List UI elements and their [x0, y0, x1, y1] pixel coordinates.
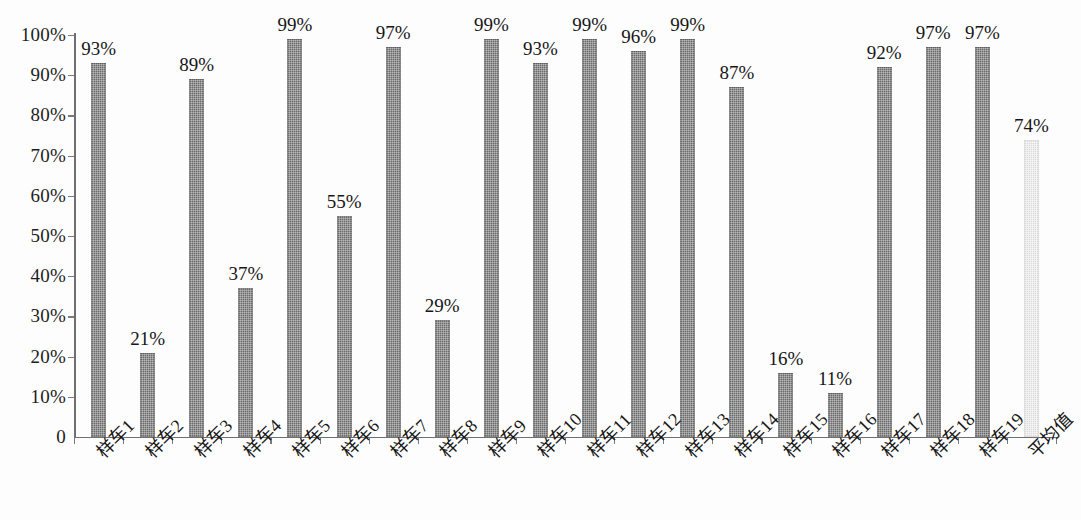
- bar[interactable]: [582, 39, 597, 437]
- bar[interactable]: [778, 373, 793, 437]
- y-axis-tick-label: 100%: [4, 25, 66, 44]
- bar-value-label: 93%: [508, 39, 572, 58]
- bar-value-label: 99%: [656, 15, 720, 34]
- bar[interactable]: [189, 79, 204, 437]
- y-axis-tick-label: 30%: [4, 306, 66, 325]
- bar[interactable]: [386, 47, 401, 437]
- bar[interactable]: [287, 39, 302, 437]
- y-axis-line: [74, 33, 76, 438]
- bar[interactable]: [238, 288, 253, 437]
- bar[interactable]: [1024, 140, 1039, 437]
- bar[interactable]: [877, 67, 892, 437]
- bar-value-label: 99%: [263, 15, 327, 34]
- bar[interactable]: [680, 39, 695, 437]
- bar-value-label: 93%: [67, 39, 131, 58]
- y-axis-tick-label: 90%: [4, 65, 66, 84]
- bar[interactable]: [631, 51, 646, 437]
- bar-value-label: 97%: [361, 23, 425, 42]
- bar[interactable]: [975, 47, 990, 437]
- y-axis-tick-label: 60%: [4, 186, 66, 205]
- y-axis-tick-label: 40%: [4, 266, 66, 285]
- bar-value-label: 74%: [999, 116, 1063, 135]
- bar-value-label: 16%: [754, 349, 818, 368]
- bar-value-label: 11%: [803, 369, 867, 388]
- bar-value-label: 29%: [410, 296, 474, 315]
- y-axis-tick-label: 10%: [4, 387, 66, 406]
- bar-value-label: 89%: [165, 55, 229, 74]
- bar[interactable]: [926, 47, 941, 437]
- bar[interactable]: [140, 353, 155, 437]
- bar-value-label: 37%: [214, 264, 278, 283]
- bar-value-label: 55%: [312, 192, 376, 211]
- bar-value-label: 97%: [950, 23, 1014, 42]
- bar[interactable]: [729, 87, 744, 437]
- bar-value-label: 99%: [459, 15, 523, 34]
- bar[interactable]: [828, 393, 843, 437]
- bar-value-label: 21%: [116, 329, 180, 348]
- y-axis-tick-label: 0: [4, 427, 66, 446]
- bar-value-label: 87%: [705, 63, 769, 82]
- bar[interactable]: [533, 63, 548, 437]
- bar[interactable]: [91, 63, 106, 437]
- x-axis-tick: [74, 437, 75, 444]
- y-axis-tick-label: 80%: [4, 105, 66, 124]
- bar[interactable]: [435, 320, 450, 437]
- bar[interactable]: [337, 216, 352, 437]
- bar[interactable]: [484, 39, 499, 437]
- y-axis-tick-label: 70%: [4, 146, 66, 165]
- y-axis-tick-label: 20%: [4, 347, 66, 366]
- bar-value-label: 92%: [852, 43, 916, 62]
- y-axis-tick-label: 50%: [4, 226, 66, 245]
- bar-chart: 010%20%30%40%50%60%70%80%90%100% 93%21%8…: [0, 0, 1081, 520]
